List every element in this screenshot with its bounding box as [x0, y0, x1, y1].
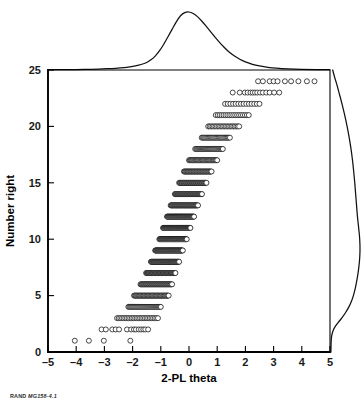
point-row	[157, 237, 189, 242]
point-row	[193, 146, 226, 151]
data-point	[304, 79, 309, 84]
data-point	[199, 192, 204, 197]
point-row	[126, 304, 163, 309]
data-point	[289, 79, 294, 84]
footer-figure-id: MG158-4.1	[28, 393, 57, 399]
data-point	[204, 180, 209, 185]
data-point	[282, 79, 287, 84]
point-row	[213, 113, 251, 118]
data-point	[260, 79, 265, 84]
x-tick-label: 1	[214, 356, 220, 368]
point-row	[144, 271, 178, 276]
data-point	[246, 113, 251, 118]
data-point	[196, 203, 201, 208]
data-point	[192, 214, 197, 219]
data-point	[103, 327, 108, 332]
x-tick-label: –5	[42, 356, 54, 368]
data-point	[312, 79, 317, 84]
x-tick-label: 2	[242, 356, 248, 368]
point-row	[187, 158, 220, 163]
y-tick-label: 15	[29, 177, 41, 189]
data-point	[117, 327, 122, 332]
data-point	[86, 338, 91, 343]
footer-prefix: RAND	[10, 393, 26, 399]
y-tick-label: 20	[29, 120, 41, 132]
data-point	[166, 293, 171, 298]
figure-container: –5–4–3–2–1012345 0510152025 2-PL theta N…	[0, 0, 364, 404]
x-tick-label: 4	[299, 356, 306, 368]
axis-lines	[48, 70, 330, 352]
data-point	[180, 248, 185, 253]
y-tick-label: 0	[35, 346, 41, 358]
point-row	[138, 282, 175, 287]
data-point	[128, 338, 133, 343]
data-point	[158, 304, 163, 309]
data-point	[256, 79, 261, 84]
data-point	[257, 101, 262, 106]
figure-source-note: RAND MG158-4.1	[10, 393, 57, 399]
point-row	[161, 225, 193, 230]
point-row	[172, 192, 204, 197]
data-point	[146, 327, 151, 332]
point-row	[148, 259, 181, 264]
point-row	[230, 90, 282, 95]
x-tick-label: –3	[98, 356, 110, 368]
data-point	[209, 169, 214, 174]
right-density-path	[331, 70, 360, 352]
point-row	[223, 101, 262, 106]
data-point	[173, 271, 178, 276]
point-row	[99, 327, 151, 332]
top-density-path	[48, 12, 330, 70]
data-point	[101, 338, 106, 343]
y-axis-tick-labels: 0510152025	[29, 64, 41, 358]
data-point	[170, 282, 175, 287]
point-row	[206, 124, 242, 129]
data-point	[215, 158, 220, 163]
point-row	[168, 203, 200, 208]
data-point	[177, 259, 182, 264]
point-row	[132, 293, 172, 298]
y-tick-label: 5	[35, 289, 41, 301]
x-tick-label: 3	[271, 356, 277, 368]
data-point	[155, 316, 160, 321]
point-row	[153, 248, 186, 253]
x-tick-label: –4	[70, 356, 83, 368]
y-axis-title: Number right	[4, 175, 16, 247]
data-points-layer	[72, 79, 317, 343]
data-point	[230, 90, 235, 95]
point-row	[256, 79, 317, 84]
data-point	[272, 90, 277, 95]
x-tick-label: 0	[186, 356, 192, 368]
x-tick-label: –2	[126, 356, 138, 368]
point-row	[72, 338, 133, 343]
data-point	[184, 237, 189, 242]
x-tick-label: –1	[155, 356, 167, 368]
point-row	[181, 169, 214, 174]
point-row	[165, 214, 197, 219]
data-point	[275, 79, 280, 84]
data-point	[237, 124, 242, 129]
top-marginal-density-curve	[48, 12, 330, 70]
data-point	[188, 225, 193, 230]
data-point	[72, 338, 77, 343]
x-axis-tick-labels: –5–4–3–2–1012345	[42, 356, 333, 368]
data-point	[220, 146, 225, 151]
y-tick-label: 25	[29, 64, 41, 76]
x-tick-label: 5	[327, 356, 333, 368]
data-point	[237, 90, 242, 95]
point-row	[177, 180, 209, 185]
data-point	[277, 90, 282, 95]
plot-frame	[48, 70, 330, 352]
x-axis-title: 2-PL theta	[161, 372, 217, 384]
data-point	[227, 135, 232, 140]
point-row	[199, 135, 232, 140]
data-point	[296, 79, 301, 84]
strip-plot-with-marginal-densities: –5–4–3–2–1012345 0510152025 2-PL theta N…	[0, 0, 364, 404]
right-marginal-density-curve	[331, 70, 360, 352]
point-row	[115, 316, 161, 321]
y-tick-label: 10	[29, 233, 41, 245]
